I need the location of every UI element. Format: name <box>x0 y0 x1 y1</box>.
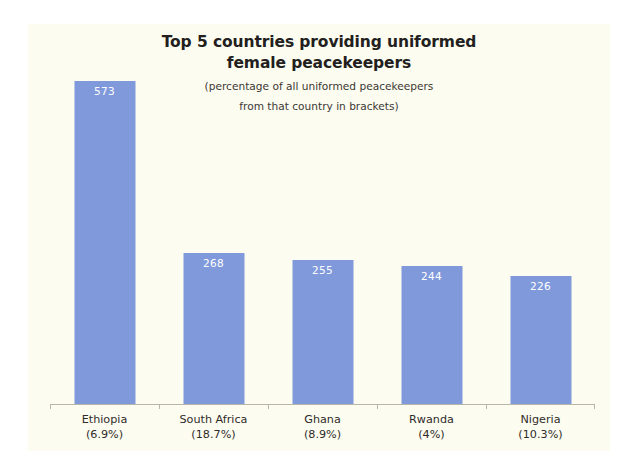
bar-value-label: 255 <box>292 264 353 276</box>
category-name: Rwanda <box>377 412 486 427</box>
category-percentage: (18.7%) <box>159 427 268 442</box>
category-name: South Africa <box>159 412 268 427</box>
x-axis-tick <box>486 404 487 409</box>
x-axis-tick <box>594 404 595 409</box>
x-tick-label-south-africa: South Africa (18.7%) <box>159 412 268 442</box>
bar-slot-rwanda: 244 <box>377 54 486 404</box>
category-percentage: (6.9%) <box>50 427 159 442</box>
category-percentage: (10.3%) <box>486 427 595 442</box>
bar-slot-ethiopia: 573 <box>50 54 159 404</box>
bar-ghana[interactable]: 255 <box>292 260 353 404</box>
bar-chart-figure: Top 5 countries providing uniformed fema… <box>0 0 639 466</box>
x-axis-labels: Ethiopia (6.9%) South Africa (18.7%) Gha… <box>50 412 595 452</box>
x-tick-label-ghana: Ghana (8.9%) <box>268 412 377 442</box>
bar-ethiopia[interactable]: 573 <box>74 81 135 404</box>
category-percentage: (8.9%) <box>268 427 377 442</box>
x-axis-tick <box>377 404 378 409</box>
x-axis-line <box>50 404 595 405</box>
bar-nigeria[interactable]: 226 <box>510 276 571 404</box>
bar-slot-nigeria: 226 <box>486 54 595 404</box>
x-axis-tick <box>159 404 160 409</box>
bar-value-label: 244 <box>401 270 462 282</box>
category-name: Ghana <box>268 412 377 427</box>
x-tick-label-rwanda: Rwanda (4%) <box>377 412 486 442</box>
x-axis-tick <box>268 404 269 409</box>
x-tick-label-nigeria: Nigeria (10.3%) <box>486 412 595 442</box>
bar-slot-south-africa: 268 <box>159 54 268 404</box>
bar-value-label: 268 <box>183 257 244 269</box>
bar-rwanda[interactable]: 244 <box>401 266 462 404</box>
chart-title-line-1: Top 5 countries providing uniformed <box>28 32 610 53</box>
bar-south-africa[interactable]: 268 <box>183 253 244 404</box>
category-percentage: (4%) <box>377 427 486 442</box>
x-axis-tick <box>50 404 51 409</box>
category-name: Ethiopia <box>50 412 159 427</box>
category-name: Nigeria <box>486 412 595 427</box>
x-tick-label-ethiopia: Ethiopia (6.9%) <box>50 412 159 442</box>
plot-area: 573 268 255 244 226 <box>50 54 595 404</box>
chart-panel: Top 5 countries providing uniformed fema… <box>28 24 610 451</box>
bar-slot-ghana: 255 <box>268 54 377 404</box>
bar-value-label: 573 <box>74 85 135 97</box>
bar-value-label: 226 <box>510 280 571 292</box>
